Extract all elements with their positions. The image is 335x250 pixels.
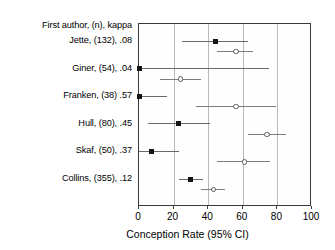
open-circle-marker (233, 104, 238, 109)
x-tick-label-40: 40 (202, 211, 213, 222)
x-tick-20 (173, 206, 174, 209)
plot-area (138, 23, 311, 206)
open-circle-marker (242, 159, 247, 164)
x-tick-0 (138, 206, 139, 209)
row-label-column: First author, (n), kappaJette, (132), .0… (0, 0, 136, 215)
gridline-80 (277, 24, 278, 205)
x-tick-label-60: 60 (236, 211, 247, 222)
x-tick-label-80: 80 (271, 211, 282, 222)
row-header-label: First author, (n), kappa (42, 20, 132, 30)
x-tick-80 (276, 206, 277, 209)
x-axis: 020406080100 (138, 206, 311, 246)
row-label-giner: Giner, (54), .04 (72, 63, 132, 73)
x-axis-title-text: Conception Rate (95% CI) (126, 228, 249, 240)
row-label-franken: Franken, (38) .57 (63, 90, 132, 100)
filled-square-marker (149, 149, 154, 154)
filled-square-marker (213, 39, 218, 44)
x-tick-100 (311, 206, 312, 209)
row-label-skaf: Skaf, (50), .37 (76, 145, 132, 155)
filled-square-marker (188, 177, 193, 182)
row-label-collins: Collins, (355), .12 (62, 173, 132, 183)
open-circle-marker (211, 187, 216, 192)
x-tick-label-0: 0 (135, 211, 141, 222)
filled-square-marker (137, 94, 142, 99)
x-tick-60 (242, 206, 243, 209)
confidence-interval-line (139, 68, 269, 69)
open-circle-marker (178, 76, 183, 81)
gridline-40 (208, 24, 209, 205)
open-circle-marker (233, 49, 238, 54)
row-label-jette: Jette, (132), .08 (69, 35, 132, 45)
open-circle-marker (264, 132, 269, 137)
filled-square-marker (137, 66, 142, 71)
forest-plot-figure: First author, (n), kappaJette, (132), .0… (0, 0, 335, 250)
x-axis-title: Conception Rate (95% CI) (0, 228, 335, 240)
x-tick-40 (207, 206, 208, 209)
gridline-20 (174, 24, 175, 205)
filled-square-marker (176, 121, 181, 126)
x-tick-label-20: 20 (167, 211, 178, 222)
row-label-hull: Hull, (80), .45 (78, 118, 132, 128)
confidence-interval-line (139, 151, 179, 152)
x-tick-label-100: 100 (303, 211, 320, 222)
confidence-interval-line (139, 96, 167, 97)
